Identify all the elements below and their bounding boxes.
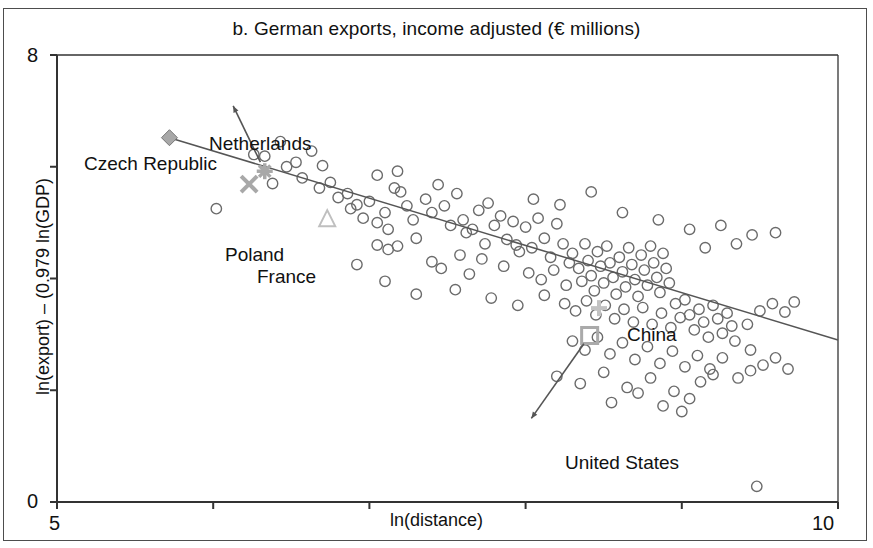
data-point	[770, 227, 780, 237]
data-point	[716, 220, 726, 230]
label-china: China	[627, 324, 677, 346]
data-point	[392, 241, 402, 251]
data-point	[452, 188, 462, 198]
data-point	[731, 239, 741, 249]
data-point	[645, 241, 655, 251]
data-point	[680, 295, 690, 305]
data-point	[586, 271, 596, 281]
data-point	[495, 211, 505, 221]
data-point	[581, 296, 591, 306]
data-point	[549, 265, 559, 275]
data-point	[589, 286, 599, 296]
data-point	[658, 401, 668, 411]
data-point	[680, 362, 690, 372]
data-point	[609, 314, 619, 324]
data-point	[727, 321, 737, 331]
data-point	[420, 194, 430, 204]
data-point	[558, 239, 568, 249]
data-point	[575, 378, 585, 388]
data-point	[433, 179, 443, 189]
data-point	[620, 282, 630, 292]
data-point	[633, 388, 643, 398]
data-point	[528, 194, 538, 204]
data-point	[464, 269, 474, 279]
data-point	[317, 160, 327, 170]
data-point	[698, 317, 708, 327]
scatter-points	[211, 136, 799, 491]
data-point	[599, 278, 609, 288]
data-point	[536, 274, 546, 284]
data-point	[636, 250, 646, 260]
data-point	[586, 187, 596, 197]
data-point	[780, 307, 790, 317]
data-point	[661, 263, 671, 273]
data-point	[677, 406, 687, 416]
data-point	[733, 373, 743, 383]
data-point	[539, 290, 549, 300]
data-point	[514, 246, 524, 256]
data-point	[605, 349, 615, 359]
data-point	[606, 397, 616, 407]
data-point	[645, 373, 655, 383]
data-point	[552, 219, 562, 229]
data-point	[580, 239, 590, 249]
data-point	[267, 178, 277, 188]
data-point	[758, 360, 768, 370]
data-point	[767, 298, 777, 308]
data-point	[486, 293, 496, 303]
data-point	[730, 336, 740, 346]
data-point	[622, 382, 632, 392]
label-france: France	[257, 266, 316, 288]
data-point	[700, 243, 710, 253]
data-point	[703, 332, 713, 342]
data-point	[747, 230, 757, 240]
data-point	[694, 304, 704, 314]
data-point	[291, 157, 301, 167]
data-point	[689, 325, 699, 335]
data-point	[570, 306, 580, 316]
data-point	[619, 304, 629, 314]
data-point	[477, 254, 487, 264]
data-point	[684, 310, 694, 320]
data-point	[717, 328, 727, 338]
data-point	[669, 386, 679, 396]
data-point	[211, 203, 221, 213]
data-point	[559, 298, 569, 308]
data-point	[652, 272, 662, 282]
data-point	[713, 314, 723, 324]
data-point	[567, 336, 577, 346]
data-point	[745, 345, 755, 355]
data-point	[722, 308, 732, 318]
data-point	[684, 224, 694, 234]
data-point	[655, 287, 665, 297]
scatter-plot-canvas	[0, 0, 873, 548]
data-point	[577, 276, 587, 286]
data-point	[667, 346, 677, 356]
data-point	[383, 224, 393, 234]
data-point	[745, 365, 755, 375]
data-point	[655, 358, 665, 368]
data-point	[533, 213, 543, 223]
data-point	[539, 233, 549, 243]
data-point	[567, 248, 577, 258]
data-point	[611, 289, 621, 299]
data-point	[617, 207, 627, 217]
data-point	[380, 276, 390, 286]
data-point	[483, 198, 493, 208]
data-point	[455, 250, 465, 260]
marker-netherlands	[257, 163, 273, 179]
data-point	[717, 353, 727, 363]
data-point	[499, 261, 509, 271]
data-point	[633, 291, 643, 301]
data-point	[520, 222, 530, 232]
data-point	[614, 252, 624, 262]
marker-france	[319, 210, 335, 226]
data-point	[789, 297, 799, 307]
data-point	[648, 258, 658, 268]
data-point	[742, 319, 752, 329]
data-point	[638, 302, 648, 312]
data-point	[372, 217, 382, 227]
figure-panel: b. German exports, income adjusted (€ mi…	[0, 0, 873, 548]
data-point	[411, 289, 421, 299]
data-point	[408, 215, 418, 225]
